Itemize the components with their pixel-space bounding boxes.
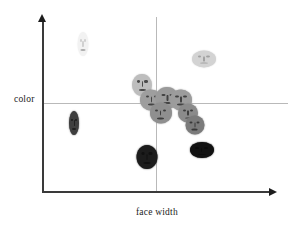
face-eye-left [141,152,144,155]
face-mouth [81,49,85,51]
face-eye-left [71,119,73,122]
face-mouth [72,128,76,130]
face-eye-right [75,119,77,122]
face-mouth [143,162,150,164]
face-eye-left [198,56,202,58]
data-point-face [69,111,79,135]
data-point-face [78,32,89,56]
data-point-face [192,51,216,68]
face-eye-left [190,121,193,123]
face-nose [74,120,75,126]
face-nose [201,148,203,152]
y-axis-line [42,22,44,192]
face-nose [83,41,84,47]
face-eye-right [206,56,210,58]
data-point-face [190,142,214,158]
face-eye-left [161,94,165,96]
face-eye-left [137,80,140,82]
face-eye-left [146,96,150,98]
face-nose [180,97,182,102]
face-eye-right [197,121,200,123]
face-eye-right [84,39,86,42]
face-eye-left [155,109,159,111]
face-eye-left [80,39,82,42]
face-eye-right [204,147,208,149]
face-eye-right [149,152,152,155]
arrow-up-icon [38,14,46,22]
face-mouth [200,63,208,64]
face-nose [160,110,162,115]
face-eye-right [144,80,147,82]
face-nose [146,154,147,160]
face-eye-right [163,109,167,111]
face-nose [203,57,205,61]
face-eye-left [195,147,199,149]
face-eye-left [183,109,186,111]
face-mouth [157,117,164,119]
face-nose [151,97,153,102]
face-nose [194,122,195,127]
face-nose [167,95,169,101]
face-eye-right [183,96,187,98]
arrow-right-icon [269,188,277,196]
x-axis-line [42,191,270,193]
face-nose [187,111,188,116]
y-axis-label: color [14,94,35,104]
data-point-face [150,103,172,124]
face-scatter-chart: color face width [0,0,290,230]
face-nose [142,81,143,87]
face-mouth [198,154,206,155]
data-point-face [136,145,157,169]
x-axis-label: face width [136,207,178,217]
face-eye-right [190,109,193,111]
face-eye-left [175,96,179,98]
face-mouth [192,129,198,131]
data-point-face [185,116,204,135]
